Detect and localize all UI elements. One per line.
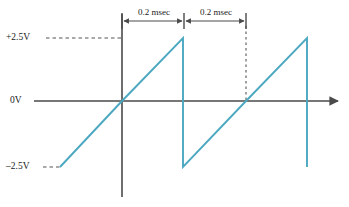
waveform-plot-svg [0,0,349,207]
dimension-label-period-2: 0.2 msec [188,8,244,17]
y-tick-label-zero-volts: 0V [10,96,22,106]
dimension-label-period-1: 0.2 msec [126,8,182,17]
y-tick-label-plus-2p5v: +2.5V [6,33,30,43]
y-tick-label-minus-2p5v: –2.5V [6,162,30,172]
sawtooth-waveform-figure: +2.5V 0V –2.5V 0.2 msec 0.2 msec [0,0,349,207]
sawtooth-trace [60,38,307,167]
